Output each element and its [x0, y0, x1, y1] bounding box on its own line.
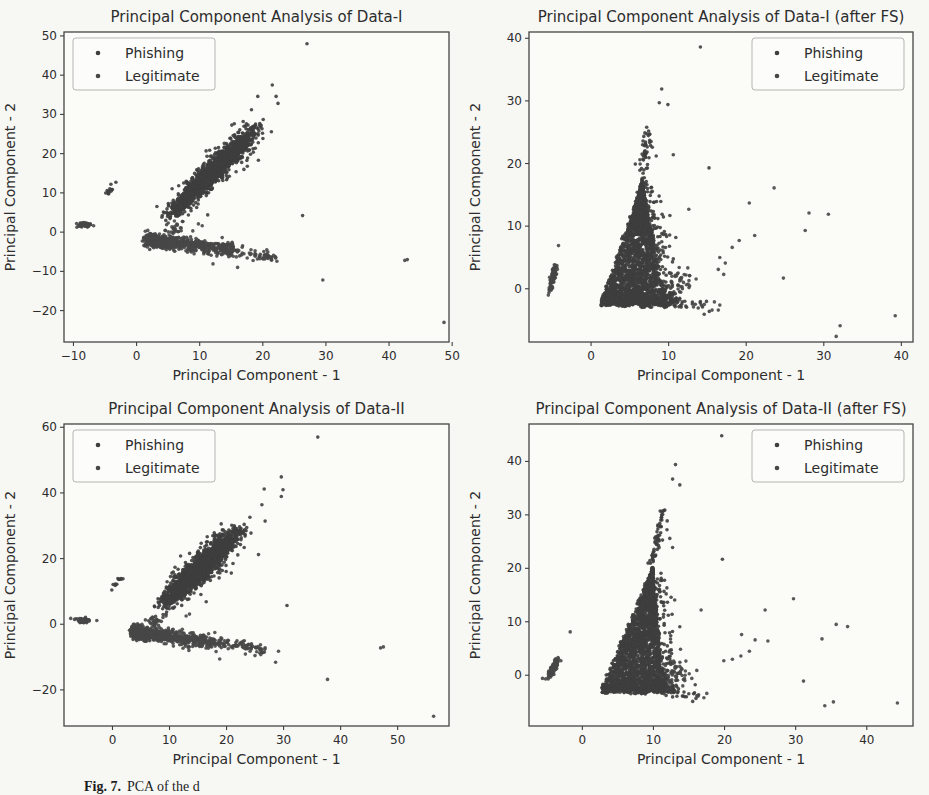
y-tick-label: 40: [507, 31, 522, 45]
y-axis-label: Principal Component - 2: [467, 103, 483, 271]
y-tick-label: 60: [42, 420, 57, 434]
x-axis-label: Principal Component - 1: [637, 751, 805, 767]
x-tick-label: 20: [255, 349, 270, 363]
x-tick-label: 10: [192, 349, 207, 363]
chart-title: Principal Component Analysis of Data-I (…: [538, 8, 905, 26]
figure-grid: Principal Component Analysis of Data-IPr…: [0, 0, 929, 776]
x-tick-label: 20: [739, 349, 754, 363]
legend-marker-icon: [775, 466, 780, 471]
y-tick-label: 40: [42, 486, 57, 500]
y-tick-label: 20: [42, 552, 57, 566]
legend-marker-icon: [96, 51, 101, 56]
y-tick-label: 0: [514, 282, 522, 296]
x-axis-label: Principal Component - 1: [172, 367, 340, 383]
y-tick-label: 20: [507, 561, 522, 575]
y-tick-label: 10: [42, 186, 57, 200]
legend-label: Phishing: [804, 437, 863, 453]
legend-label: Phishing: [125, 437, 184, 453]
y-tick-label: 40: [507, 454, 522, 468]
y-tick-label: 20: [42, 147, 57, 161]
pca-plot-data-ii: Principal Component Analysis of Data-IIP…: [0, 392, 465, 776]
x-axis-label: Principal Component - 1: [172, 751, 340, 767]
x-tick-label: 10: [162, 733, 177, 747]
legend-label: Phishing: [804, 45, 863, 61]
x-tick-label: 0: [587, 349, 595, 363]
legend: PhishingLegitimate: [73, 430, 215, 482]
legend-label: Legitimate: [804, 68, 879, 84]
x-tick-label: 50: [390, 733, 405, 747]
x-axis-label: Principal Component - 1: [637, 367, 805, 383]
y-tick-label: 10: [507, 219, 522, 233]
legend-marker-icon: [96, 74, 101, 79]
chart-title: Principal Component Analysis of Data-II …: [535, 400, 906, 418]
pca-plot-data-i-after-fs: Principal Component Analysis of Data-I (…: [465, 0, 929, 392]
legend: PhishingLegitimate: [752, 430, 904, 482]
x-tick-label: −10: [61, 349, 86, 363]
x-tick-label: 0: [133, 349, 141, 363]
y-tick-label: 20: [507, 157, 522, 171]
y-axis-label: Principal Component - 2: [2, 103, 18, 271]
x-tick-label: 30: [788, 733, 803, 747]
x-tick-label: 30: [276, 733, 291, 747]
x-tick-label: 20: [219, 733, 234, 747]
x-tick-label: 40: [859, 733, 874, 747]
y-axis-label: Principal Component - 2: [467, 491, 483, 659]
pca-plot-data-i-after-fs-canvas: Principal Component Analysis of Data-I (…: [465, 0, 929, 392]
legend: PhishingLegitimate: [752, 38, 904, 90]
caption-text: PCA of the d: [127, 779, 200, 794]
y-tick-label: 30: [507, 508, 522, 522]
caption-label: Fig. 7.: [84, 779, 121, 794]
pca-plot-data-i: Principal Component Analysis of Data-IPr…: [0, 0, 465, 392]
legend-marker-icon: [775, 74, 780, 79]
y-tick-label: 50: [42, 29, 57, 43]
x-tick-label: 40: [333, 733, 348, 747]
x-tick-label: 40: [894, 349, 909, 363]
x-tick-label: 50: [445, 349, 460, 363]
y-tick-label: 40: [42, 68, 57, 82]
pca-plot-data-ii-canvas: Principal Component Analysis of Data-IIP…: [0, 392, 465, 776]
x-tick-label: 0: [579, 733, 587, 747]
y-tick-label: 10: [507, 615, 522, 629]
x-tick-label: 10: [661, 349, 676, 363]
legend-marker-icon: [775, 51, 780, 56]
legend-label: Phishing: [125, 45, 184, 61]
y-tick-label: −20: [32, 683, 57, 697]
y-axis-label: Principal Component - 2: [2, 491, 18, 659]
legend-label: Legitimate: [125, 460, 200, 476]
pca-plot-data-i-canvas: Principal Component Analysis of Data-IPr…: [0, 0, 465, 392]
legend-marker-icon: [775, 443, 780, 448]
y-tick-label: 0: [49, 617, 57, 631]
chart-title: Principal Component Analysis of Data-II: [108, 400, 404, 418]
pca-plot-data-ii-after-fs-canvas: Principal Component Analysis of Data-II …: [465, 392, 929, 776]
y-tick-label: −10: [32, 264, 57, 278]
y-tick-label: 0: [514, 668, 522, 682]
pca-plot-data-ii-after-fs: Principal Component Analysis of Data-II …: [465, 392, 929, 776]
x-tick-label: 0: [109, 733, 117, 747]
chart-title: Principal Component Analysis of Data-I: [111, 8, 403, 26]
y-tick-label: 0: [49, 225, 57, 239]
legend-label: Legitimate: [125, 68, 200, 84]
legend-marker-icon: [96, 443, 101, 448]
legend-label: Legitimate: [804, 460, 879, 476]
legend-marker-icon: [96, 466, 101, 471]
x-tick-label: 10: [646, 733, 661, 747]
x-tick-label: 20: [717, 733, 732, 747]
y-tick-label: −20: [32, 304, 57, 318]
x-tick-label: 30: [318, 349, 333, 363]
x-tick-label: 30: [816, 349, 831, 363]
y-tick-label: 30: [507, 94, 522, 108]
figure-caption: Fig. 7.PCA of the d: [84, 779, 200, 795]
y-tick-label: 30: [42, 107, 57, 121]
x-tick-label: 40: [381, 349, 396, 363]
legend: PhishingLegitimate: [73, 38, 215, 90]
